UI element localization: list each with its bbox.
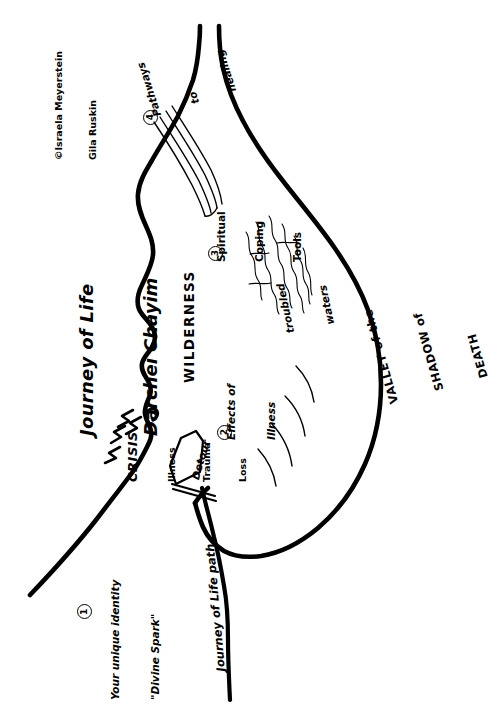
valley-line-1: VALLEY of the xyxy=(361,307,403,406)
valley-line-2: SHADOW of xyxy=(406,294,448,393)
water-tick-2 xyxy=(249,283,271,284)
stop-3-line-1: Spiritual xyxy=(215,211,228,262)
stop-2-line-2: Illness xyxy=(265,384,278,440)
diagram-title: Journey of Life Darchei Chayim xyxy=(34,278,204,436)
stop-2-label: Effects of Illness xyxy=(199,384,304,440)
crisis-heading: CRISIS xyxy=(126,431,141,482)
title-line-2: Darchei Chayim xyxy=(140,278,161,436)
title-line-1: Journey of Life xyxy=(76,278,97,436)
region-wilderness-label: WILDERNESS xyxy=(182,270,197,383)
crisis-item-illness: Illness xyxy=(166,442,178,482)
stop-4-line-3: healing xyxy=(210,36,240,93)
copyright-credit: ©Israela Meyerstein Gila Ruskin xyxy=(30,51,121,160)
credit-line-1: ©Israela Meyerstein xyxy=(53,51,64,160)
stop-2-line-1: Effects of xyxy=(225,384,238,440)
credit-line-2: Gila Ruskin xyxy=(87,51,98,160)
valley-line-3: DEATH xyxy=(450,281,492,380)
stop-1-line-2: "Divine Spark" xyxy=(149,580,162,700)
stop-3-line-3: Tools xyxy=(291,211,304,262)
stop-3-label: Spiritual Coping Tools xyxy=(189,211,330,262)
pathway-curve-inner2 xyxy=(172,106,222,204)
lightning-bolt-1 xyxy=(105,447,120,463)
troubled-waters-line-1: troubled xyxy=(274,282,298,334)
stop-4-line-1: Pathways xyxy=(135,60,165,117)
stop-1-line-1: Your unique identity xyxy=(109,580,122,700)
stop-3-line-2: Coping xyxy=(253,211,266,262)
stop-1-label: Your unique identity "Divine Spark" xyxy=(83,580,188,700)
stop-4-line-2: to xyxy=(172,48,202,105)
